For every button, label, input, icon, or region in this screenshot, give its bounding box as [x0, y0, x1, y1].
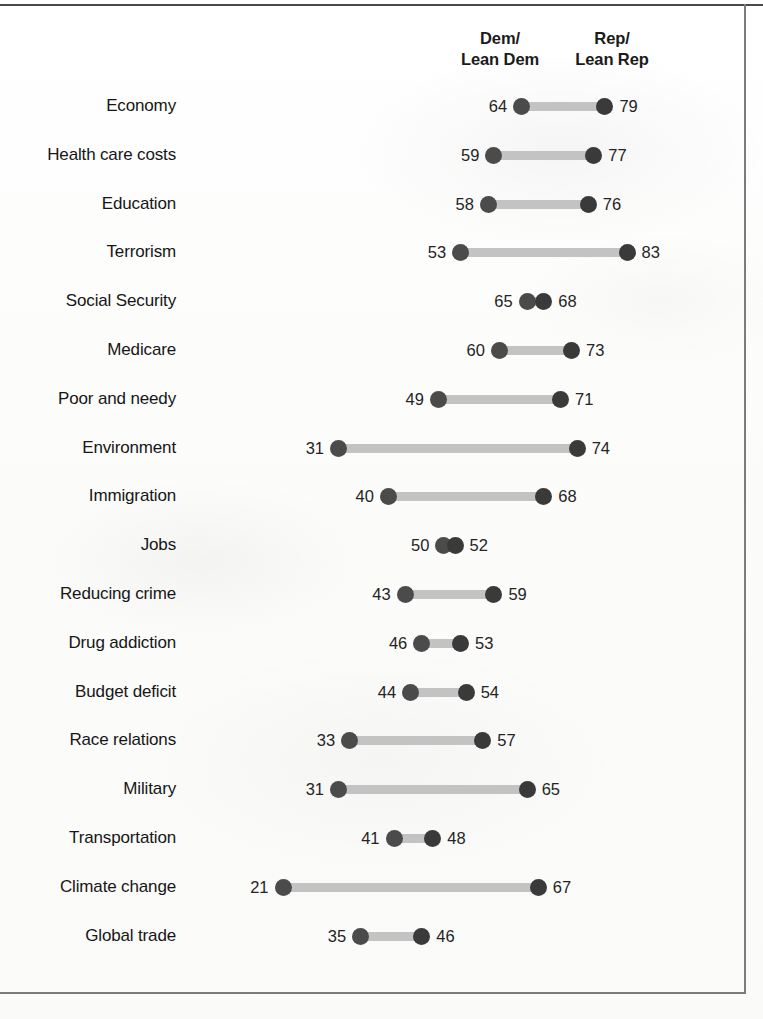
- value-label-left: 59: [439, 139, 479, 171]
- dumbbell-plot: Economy6479Health care costs5977Educatio…: [0, 0, 763, 1019]
- dem-dot: [386, 830, 403, 847]
- row-label: Environment: [0, 432, 176, 464]
- value-label-right: 83: [642, 236, 682, 268]
- connector-bar: [339, 785, 528, 794]
- dem-dot: [430, 391, 447, 408]
- value-label-left: 21: [229, 871, 269, 903]
- rep-dot: [580, 196, 597, 213]
- row-label: Health care costs: [0, 139, 176, 171]
- connector-bar: [388, 492, 543, 501]
- rep-dot: [452, 635, 469, 652]
- value-label-right: 68: [558, 285, 598, 317]
- chart-row: Health care costs5977: [0, 139, 763, 171]
- rep-dot: [619, 244, 636, 261]
- connector-bar: [438, 395, 560, 404]
- value-label-left: 50: [389, 529, 429, 561]
- row-label: Medicare: [0, 334, 176, 366]
- row-label: Budget deficit: [0, 676, 176, 708]
- dem-dot: [413, 635, 430, 652]
- value-label-left: 65: [473, 285, 513, 317]
- connector-bar: [461, 248, 628, 257]
- rep-dot: [424, 830, 441, 847]
- row-label: Race relations: [0, 724, 176, 756]
- connector-bar: [283, 883, 538, 892]
- value-label-right: 79: [619, 90, 659, 122]
- row-label: Transportation: [0, 822, 176, 854]
- rep-dot: [530, 879, 547, 896]
- row-label: Immigration: [0, 480, 176, 512]
- chart-row: Reducing crime4359: [0, 578, 763, 610]
- value-label-right: 54: [481, 676, 521, 708]
- value-label-right: 59: [508, 578, 548, 610]
- value-label-right: 46: [436, 920, 476, 952]
- dem-dot: [452, 244, 469, 261]
- rep-dot: [474, 732, 491, 749]
- row-label: Reducing crime: [0, 578, 176, 610]
- row-label: Global trade: [0, 920, 176, 952]
- value-label-right: 48: [447, 822, 487, 854]
- dem-dot: [330, 781, 347, 798]
- connector-bar: [522, 102, 605, 111]
- connector-bar: [405, 590, 494, 599]
- row-label: Climate change: [0, 871, 176, 903]
- dem-dot: [341, 732, 358, 749]
- value-label-left: 44: [356, 676, 396, 708]
- chart-row: Economy6479: [0, 90, 763, 122]
- value-label-right: 76: [603, 188, 643, 220]
- chart-row: Poor and needy4971: [0, 383, 763, 415]
- rep-dot: [458, 684, 475, 701]
- rep-dot: [596, 98, 613, 115]
- value-label-left: 31: [284, 432, 324, 464]
- value-label-left: 31: [284, 773, 324, 805]
- chart-row: Budget deficit4454: [0, 676, 763, 708]
- row-label: Economy: [0, 90, 176, 122]
- chart-row: Medicare6073: [0, 334, 763, 366]
- dem-dot: [275, 879, 292, 896]
- connector-bar: [350, 736, 483, 745]
- chart-row: Environment3174: [0, 432, 763, 464]
- dem-dot: [485, 147, 502, 164]
- row-label: Jobs: [0, 529, 176, 561]
- connector-bar: [488, 200, 588, 209]
- row-label: Education: [0, 188, 176, 220]
- value-label-left: 60: [445, 334, 485, 366]
- rep-dot: [413, 928, 430, 945]
- chart-row: Immigration4068: [0, 480, 763, 512]
- rep-dot: [552, 391, 569, 408]
- row-label: Social Security: [0, 285, 176, 317]
- dem-dot: [352, 928, 369, 945]
- row-label: Drug addiction: [0, 627, 176, 659]
- rep-dot: [569, 440, 586, 457]
- value-label-left: 46: [367, 627, 407, 659]
- value-label-right: 53: [475, 627, 515, 659]
- chart-row: Global trade3546: [0, 920, 763, 952]
- row-label: Military: [0, 773, 176, 805]
- value-label-right: 57: [497, 724, 537, 756]
- chart-row: Jobs5052: [0, 529, 763, 561]
- dem-dot: [330, 440, 347, 457]
- value-label-right: 74: [592, 432, 632, 464]
- dem-dot: [513, 98, 530, 115]
- value-label-left: 53: [406, 236, 446, 268]
- value-label-left: 58: [434, 188, 474, 220]
- dem-dot: [480, 196, 497, 213]
- value-label-right: 65: [542, 773, 582, 805]
- dem-dot: [402, 684, 419, 701]
- rep-dot: [535, 488, 552, 505]
- chart-page: Dem/ Lean Dem Rep/ Lean Rep Economy6479H…: [0, 0, 763, 1019]
- chart-row: Social Security6568: [0, 285, 763, 317]
- rep-dot: [447, 537, 464, 554]
- rep-dot: [563, 342, 580, 359]
- value-label-right: 77: [608, 139, 648, 171]
- rep-dot: [485, 586, 502, 603]
- chart-row: Race relations3357: [0, 724, 763, 756]
- value-label-right: 52: [470, 529, 510, 561]
- value-label-left: 49: [384, 383, 424, 415]
- connector-bar: [339, 444, 578, 453]
- row-label: Poor and needy: [0, 383, 176, 415]
- rep-dot: [585, 147, 602, 164]
- value-label-left: 64: [467, 90, 507, 122]
- value-label-right: 71: [575, 383, 615, 415]
- connector-bar: [499, 346, 571, 355]
- value-label-left: 40: [334, 480, 374, 512]
